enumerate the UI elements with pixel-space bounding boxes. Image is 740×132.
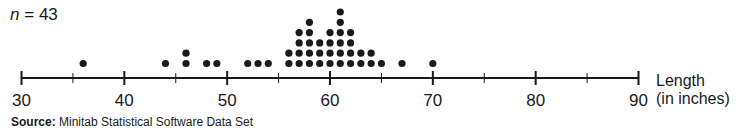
data-dot xyxy=(80,60,87,67)
data-dot xyxy=(285,50,292,57)
data-dot xyxy=(254,60,261,67)
data-dot xyxy=(337,50,344,57)
data-dot xyxy=(347,39,354,46)
data-dot xyxy=(316,39,323,46)
tick-label: 60 xyxy=(321,91,340,110)
x-axis-title-line2: (in inches) xyxy=(656,90,730,108)
source-label: Source: xyxy=(11,115,56,129)
x-axis: 30405060708090 xyxy=(12,71,648,110)
data-dot xyxy=(213,60,220,67)
tick-label: 80 xyxy=(526,91,545,110)
data-dot xyxy=(182,60,189,67)
tick-label: 70 xyxy=(423,91,442,110)
data-dot xyxy=(182,50,189,57)
data-dot xyxy=(326,29,333,36)
source-text: Minitab Statistical Software Data Set xyxy=(59,115,253,129)
data-dot xyxy=(398,60,405,67)
data-dot xyxy=(326,39,333,46)
data-dot xyxy=(306,29,313,36)
data-dot xyxy=(316,60,323,67)
tick-label: 50 xyxy=(218,91,237,110)
data-dot xyxy=(306,39,313,46)
data-dot xyxy=(306,19,313,26)
data-dot xyxy=(347,29,354,36)
data-dot xyxy=(296,50,303,57)
data-dot xyxy=(429,60,436,67)
data-dot xyxy=(162,60,169,67)
data-dot xyxy=(378,60,385,67)
dot-plot: 30405060708090 xyxy=(0,0,740,132)
data-dot xyxy=(326,60,333,67)
tick-label: 30 xyxy=(12,91,31,110)
x-axis-title-line1: Length xyxy=(656,72,730,90)
data-dot xyxy=(265,60,272,67)
data-dot xyxy=(337,29,344,36)
data-dot xyxy=(337,19,344,26)
data-dots xyxy=(80,8,437,67)
data-dot xyxy=(326,50,333,57)
data-dot xyxy=(337,39,344,46)
data-dot xyxy=(368,50,375,57)
data-dot xyxy=(347,50,354,57)
data-dot xyxy=(244,60,251,67)
data-dot xyxy=(337,60,344,67)
data-dot xyxy=(296,60,303,67)
data-dot xyxy=(296,39,303,46)
x-axis-title: Length (in inches) xyxy=(656,72,730,108)
data-dot xyxy=(306,50,313,57)
data-dot xyxy=(296,29,303,36)
tick-label: 40 xyxy=(115,91,134,110)
data-dot xyxy=(306,60,313,67)
data-dot xyxy=(203,60,210,67)
tick-label: 90 xyxy=(629,91,648,110)
data-dot xyxy=(316,50,323,57)
data-dot xyxy=(357,50,364,57)
data-dot xyxy=(368,60,375,67)
source-note: Source: Minitab Statistical Software Dat… xyxy=(11,115,253,129)
data-dot xyxy=(285,60,292,67)
data-dot xyxy=(337,8,344,15)
data-dot xyxy=(347,60,354,67)
data-dot xyxy=(357,60,364,67)
